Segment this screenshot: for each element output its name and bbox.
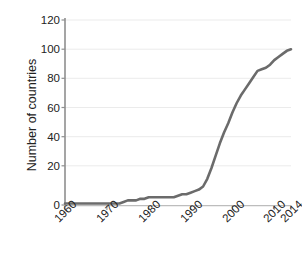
x-tick-label: 1960 xyxy=(52,198,79,225)
chart-container: Number of countries 120 100 80 60 40 20 … xyxy=(0,0,302,256)
x-tick-label: 1990 xyxy=(178,198,205,225)
x-axis-tick-labels: 1960 1970 1980 1990 2000 2010 2014 xyxy=(0,0,302,256)
x-tick-label: 1980 xyxy=(136,198,163,225)
x-tick-label: 2000 xyxy=(220,198,247,225)
x-tick-label: 1970 xyxy=(94,198,121,225)
